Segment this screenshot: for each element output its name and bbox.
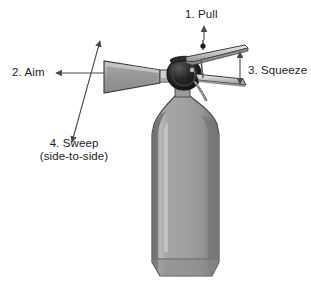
sweep-arrow xyxy=(72,41,100,142)
label-pull: 1. Pull xyxy=(185,8,218,21)
label-squeeze: 3. Squeeze xyxy=(248,64,307,77)
label-sweep-line2: (side-to-side) xyxy=(32,150,116,163)
fire-extinguisher-diagram: 1. Pull 2. Aim 3. Squeeze 4. Sweep (side… xyxy=(0,0,311,294)
cylinder-body-group xyxy=(152,84,219,276)
label-aim: 2. Aim xyxy=(12,66,45,79)
cylinder-bottom-shade xyxy=(152,258,219,276)
horn-nozzle-group xyxy=(104,61,172,93)
valve-specular xyxy=(190,68,194,72)
label-sweep: 4. Sweep (side-to-side) xyxy=(32,137,116,162)
safety-pin-head xyxy=(200,43,205,48)
cylinder-highlight xyxy=(164,122,168,252)
label-sweep-line1: 4. Sweep xyxy=(32,137,116,150)
